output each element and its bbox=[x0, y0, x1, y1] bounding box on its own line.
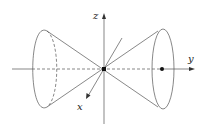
y-axis-point bbox=[160, 67, 164, 71]
x-axis-label: x bbox=[77, 101, 83, 112]
y-axis-arrow-icon bbox=[189, 67, 195, 71]
z-axis-arrow-icon bbox=[102, 13, 106, 19]
x-axis-arrow-icon bbox=[86, 93, 91, 99]
double-cone-diagram: z y x bbox=[0, 0, 209, 129]
origin-point bbox=[102, 67, 106, 71]
y-axis-label: y bbox=[187, 53, 194, 64]
z-axis-label: z bbox=[92, 10, 99, 21]
